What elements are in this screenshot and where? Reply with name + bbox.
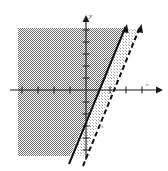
inequality-graph: y x x bbox=[0, 0, 168, 171]
figure-container: y x x bbox=[0, 0, 168, 171]
x-axis-arrow-icon bbox=[156, 87, 163, 94]
y-axis-label: y bbox=[88, 12, 93, 20]
x-axis-label: x bbox=[145, 82, 149, 87]
line-annotation-label: x bbox=[100, 124, 104, 129]
